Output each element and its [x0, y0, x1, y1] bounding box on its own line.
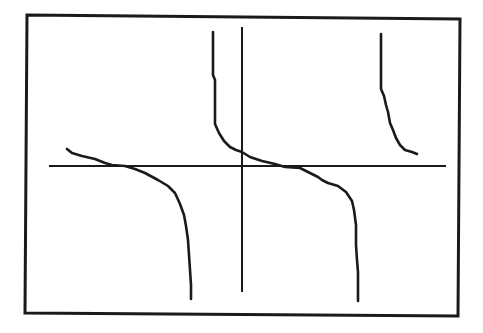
graph-window: Graphing-calculator style plot of a decr…: [0, 0, 483, 333]
function-plot: [0, 0, 483, 333]
branch-left: [67, 149, 191, 299]
branch-right: [381, 34, 417, 154]
